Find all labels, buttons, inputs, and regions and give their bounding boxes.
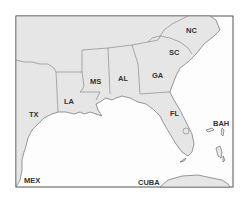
label-ms: MS	[90, 77, 101, 86]
label-cuba: CUBA	[138, 178, 160, 187]
label-mex: MEX	[24, 176, 40, 185]
label-al: AL	[118, 74, 128, 83]
label-bah: BAH	[213, 119, 229, 128]
label-sc: SC	[169, 48, 180, 57]
label-fl: FL	[170, 109, 180, 118]
label-ga: GA	[152, 71, 164, 80]
label-nc: NC	[186, 26, 197, 35]
southeast-us-map: NC SC GA AL MS LA TX FL BAH MEX CUBA	[0, 0, 246, 211]
label-la: LA	[64, 97, 75, 106]
label-tx: TX	[29, 110, 39, 119]
